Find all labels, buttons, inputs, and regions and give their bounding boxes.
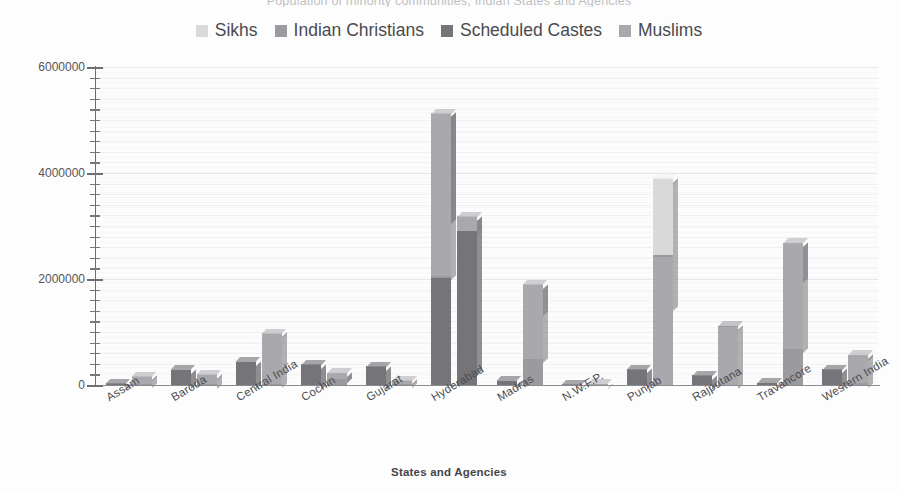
bar-column[interactable] bbox=[262, 333, 282, 385]
y-tick-major bbox=[87, 279, 103, 281]
bar-column[interactable] bbox=[457, 216, 477, 385]
bar-segment-side bbox=[451, 113, 456, 280]
bar-segment bbox=[431, 113, 451, 276]
bar-top-face bbox=[588, 379, 612, 384]
gridline bbox=[96, 120, 878, 121]
bar-top-face bbox=[458, 212, 482, 217]
bar-column[interactable] bbox=[653, 178, 673, 385]
gridline bbox=[96, 215, 878, 216]
y-tick-minor bbox=[90, 290, 100, 291]
gridline bbox=[96, 152, 878, 153]
bar-top-face bbox=[653, 174, 677, 179]
bar-segment bbox=[718, 326, 738, 327]
bar-segment-side bbox=[477, 217, 482, 375]
y-tick-minor bbox=[90, 205, 100, 206]
bar-top-face bbox=[784, 238, 808, 243]
y-tick-minor bbox=[90, 120, 100, 121]
bar-segment bbox=[262, 333, 282, 384]
bar-top-face bbox=[523, 280, 547, 285]
bar-top-face bbox=[197, 370, 221, 375]
bar-column[interactable] bbox=[327, 373, 347, 385]
bar-top-face bbox=[367, 362, 391, 367]
y-tick-label: 0 bbox=[1, 378, 85, 392]
gridline bbox=[96, 162, 878, 163]
bar-segment-side bbox=[868, 355, 873, 388]
y-tick-minor bbox=[90, 247, 100, 248]
bar-segment bbox=[783, 243, 803, 349]
gridline bbox=[96, 353, 878, 354]
bar-column[interactable] bbox=[431, 113, 451, 385]
gridline bbox=[96, 332, 878, 333]
bar-top-face bbox=[719, 321, 743, 326]
y-tick-major bbox=[87, 67, 103, 69]
y-tick-minor bbox=[90, 226, 100, 227]
y-tick-minor bbox=[90, 131, 100, 132]
bar-segment bbox=[457, 216, 477, 231]
gridline bbox=[96, 321, 878, 322]
bar-segment-side bbox=[543, 284, 548, 362]
bar-top-face bbox=[262, 329, 286, 334]
y-tick-minor bbox=[90, 268, 100, 269]
bar-segment-side bbox=[347, 373, 352, 383]
gridline bbox=[96, 247, 878, 248]
bar-top-face bbox=[562, 380, 586, 385]
gridline bbox=[96, 88, 878, 89]
bar-top-face bbox=[823, 365, 847, 370]
bar-segment bbox=[392, 380, 412, 384]
y-tick-minor bbox=[90, 78, 100, 79]
y-tick-label: 4000000 bbox=[1, 166, 85, 180]
bar-column[interactable] bbox=[197, 374, 217, 385]
bar-column[interactable] bbox=[171, 370, 191, 385]
bar-top-face bbox=[302, 360, 326, 365]
gridline bbox=[96, 258, 878, 259]
bar-column[interactable] bbox=[718, 326, 738, 385]
bar-column[interactable] bbox=[848, 355, 868, 385]
bar-segment bbox=[431, 276, 451, 278]
gridline bbox=[96, 131, 878, 132]
bar-column[interactable] bbox=[692, 375, 712, 385]
bar-segment-side bbox=[673, 178, 678, 259]
bar-column[interactable] bbox=[783, 243, 803, 385]
y-tick-minor bbox=[90, 353, 100, 354]
bar-segment bbox=[132, 376, 152, 384]
gridline bbox=[96, 99, 878, 100]
bar-top-face bbox=[171, 365, 195, 370]
bar-segment bbox=[627, 369, 647, 385]
y-tick-minor bbox=[90, 152, 100, 153]
y-tick-minor bbox=[90, 184, 100, 185]
bar-segment-side bbox=[738, 326, 743, 389]
bar-column[interactable] bbox=[523, 284, 543, 385]
bar-segment bbox=[236, 362, 256, 385]
bar-segment-side bbox=[712, 376, 717, 390]
y-tick-major bbox=[87, 173, 103, 175]
gridline bbox=[96, 141, 878, 142]
gridline bbox=[96, 78, 878, 79]
bar-column[interactable] bbox=[822, 369, 842, 385]
bar-column[interactable] bbox=[627, 369, 647, 385]
bar-segment bbox=[523, 284, 543, 358]
y-tick-label: 6000000 bbox=[1, 60, 85, 74]
bar-column[interactable] bbox=[301, 364, 321, 385]
bar-column[interactable] bbox=[132, 376, 152, 385]
y-tick-minor bbox=[90, 215, 100, 216]
bar-column[interactable] bbox=[366, 366, 386, 385]
plot-wrapper: 0200000040000006000000 AssamBarodaCentra… bbox=[0, 0, 898, 493]
y-tick-minor bbox=[90, 237, 100, 238]
bar-segment bbox=[718, 326, 738, 385]
bar-segment bbox=[431, 278, 451, 385]
bar-segment bbox=[366, 366, 386, 385]
gridline bbox=[96, 109, 878, 110]
y-tick-minor bbox=[90, 332, 100, 333]
x-axis-title: States and Agencies bbox=[0, 466, 898, 478]
gridline bbox=[96, 226, 878, 227]
bar-segment bbox=[848, 355, 868, 384]
gridline bbox=[96, 343, 878, 344]
bar-top-face bbox=[328, 368, 352, 373]
bar-column[interactable] bbox=[236, 362, 256, 385]
bar-segment bbox=[301, 364, 321, 385]
y-tick-minor bbox=[90, 99, 100, 100]
y-tick-minor bbox=[90, 88, 100, 89]
y-tick-minor bbox=[90, 374, 100, 375]
bar-top-face bbox=[236, 357, 260, 362]
gridline bbox=[96, 268, 878, 269]
